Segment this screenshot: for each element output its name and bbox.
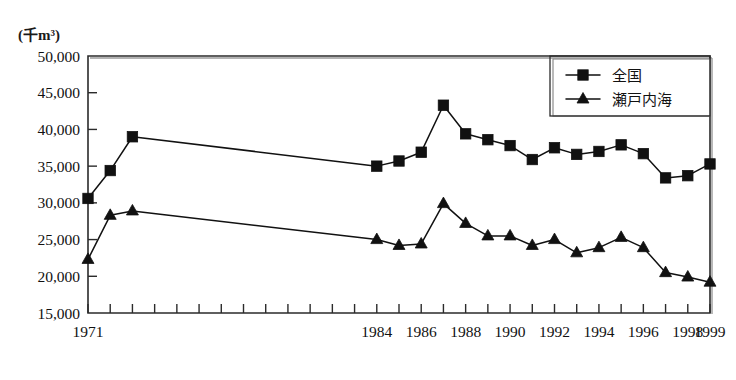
data-point-marker-square [460,129,470,139]
x-axis-tick-label: 1971 [73,323,104,340]
y-axis-tick-label: 40,000 [37,121,80,138]
series-line-1 [88,105,710,198]
data-point-marker-triangle [82,253,94,264]
data-point-marker-triangle [482,229,494,240]
data-point-marker-triangle [615,231,627,242]
data-point-marker-square [416,147,426,157]
x-axis-tick-label: 1990 [495,323,526,340]
data-point-marker-square [660,173,670,183]
y-axis-tick-label: 15,000 [37,305,80,322]
y-axis-tick-label: 35,000 [37,158,80,175]
data-point-marker-triangle [415,237,427,248]
data-point-marker-square [83,193,93,203]
line-chart: (千m³)15,00020,00025,00030,00035,00040,00… [0,0,736,380]
data-point-marker-square [105,165,115,175]
legend-marker-square [578,70,588,80]
legend-label-1: 全国 [612,67,642,84]
data-point-marker-triangle [126,204,138,215]
data-point-marker-triangle [437,197,449,208]
data-point-marker-square [438,100,448,110]
y-axis-unit-label: (千m³) [18,27,60,44]
data-point-marker-triangle [504,229,516,240]
x-axis-tick-label: 1984 [361,323,392,340]
data-point-marker-square [638,148,648,158]
data-point-marker-square [594,146,604,156]
y-axis-tick-label: 25,000 [37,231,80,248]
y-axis-tick-label: 50,000 [37,48,80,65]
data-point-marker-square [705,159,715,169]
data-point-marker-triangle [460,217,472,228]
y-axis-tick-label: 45,000 [37,84,80,101]
x-axis-tick-label: 1994 [583,323,614,340]
y-axis-tick-label: 20,000 [37,268,80,285]
data-point-marker-square [483,135,493,145]
data-point-marker-square [683,170,693,180]
data-point-marker-square [527,154,537,164]
x-axis-tick-label: 1986 [406,323,437,340]
x-axis-tick-label: 1999 [695,323,726,340]
data-point-marker-square [127,132,137,142]
data-point-marker-triangle [549,233,561,244]
x-axis-tick-label: 1996 [628,323,659,340]
data-point-marker-square [372,161,382,171]
legend-label-2: 瀬戸内海 [612,91,672,108]
x-axis-tick-label: 1992 [539,323,570,340]
data-point-marker-square [616,140,626,150]
chart-container: (千m³)15,00020,00025,00030,00035,00040,00… [0,0,736,380]
data-point-marker-square [505,140,515,150]
data-point-marker-square [394,156,404,166]
data-point-marker-square [549,143,559,153]
y-axis-tick-label: 30,000 [37,194,80,211]
x-axis-tick-label: 1988 [450,323,481,340]
data-point-marker-square [572,149,582,159]
